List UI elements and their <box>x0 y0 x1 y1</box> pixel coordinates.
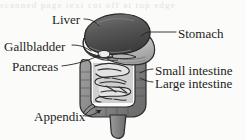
label-gallbladder: Gallbladder <box>4 40 65 53</box>
label-large-intestine: Large intestine <box>155 77 232 90</box>
digestive-system-figure: scanned page text cut off at top edge <box>0 0 246 140</box>
organ-group <box>80 14 155 138</box>
organ-rectum <box>110 115 126 138</box>
label-liver: Liver <box>52 13 80 26</box>
label-appendix: Appendix <box>34 110 85 123</box>
label-stomach: Stomach <box>178 27 224 40</box>
organ-small-intestine <box>93 63 133 103</box>
label-pancreas: Pancreas <box>12 60 58 73</box>
